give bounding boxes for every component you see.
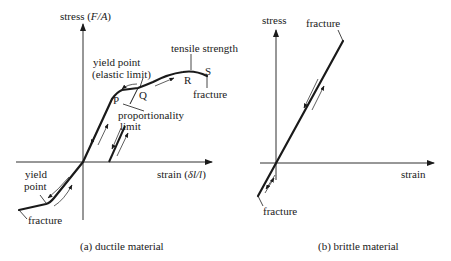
point-q-label: Q bbox=[139, 89, 147, 101]
brittle-load-arrow bbox=[312, 86, 324, 110]
neg-yield-leader bbox=[40, 195, 46, 203]
x-axis-label: strain (δl/l) bbox=[157, 168, 206, 181]
brittle-curve bbox=[258, 41, 343, 196]
neg-yield-label: yield bbox=[25, 168, 47, 180]
stress-strain-figure: stress (F/A) strain (δl/l) tensile stren… bbox=[0, 0, 451, 261]
limit-label: limit bbox=[120, 120, 141, 132]
ductile-curve bbox=[19, 72, 207, 211]
brittle-unload-arrow bbox=[304, 79, 318, 108]
panel-ductile: stress (F/A) strain (δl/l) tensile stren… bbox=[16, 10, 238, 253]
q-tick bbox=[130, 88, 138, 104]
y-axis-label-b: stress bbox=[262, 14, 286, 26]
caption-brittle: (b) brittle material bbox=[318, 240, 399, 253]
fracture-label-bottom-b: fracture bbox=[263, 205, 297, 217]
point-r-label: R bbox=[184, 74, 192, 86]
neg-point-label: point bbox=[24, 180, 47, 192]
caption-ductile: (a) ductile material bbox=[80, 240, 164, 253]
fracture-label-top: fracture bbox=[193, 88, 227, 100]
point-s-label: S bbox=[205, 65, 211, 77]
elastic-limit-label: (elastic limit) bbox=[92, 68, 151, 81]
y-axis-label: stress (F/A) bbox=[60, 10, 111, 23]
fracture-leader-top-b bbox=[338, 30, 343, 41]
point-p-label: P bbox=[113, 94, 119, 106]
x-axis-label-b: strain bbox=[401, 168, 426, 180]
yield-point-label: yield point bbox=[93, 56, 140, 68]
tensile-strength-label: tensile strength bbox=[171, 42, 238, 54]
panel-brittle: stress fracture strain fracture (b) brit… bbox=[258, 14, 434, 253]
fracture-label-bottom: fracture bbox=[28, 214, 62, 226]
neg-fracture-leader bbox=[19, 210, 27, 219]
unload-q-arrow-up bbox=[117, 133, 128, 156]
fracture-label-top-b: fracture bbox=[306, 17, 340, 29]
unload-arrow bbox=[91, 123, 101, 144]
